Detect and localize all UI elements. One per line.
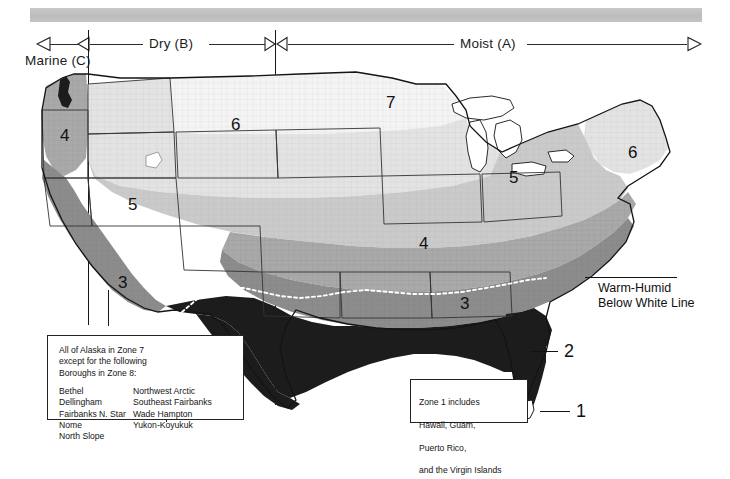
- zone-label-3-california: 3: [118, 274, 127, 291]
- zone1-legend-line-3: Puerto Rico,: [419, 443, 527, 454]
- zone-label-6-rockies: 6: [231, 116, 240, 133]
- alaska-borough-northwest-arctic: Northwest Arctic: [133, 386, 212, 397]
- zone-label-4-plains: 4: [419, 235, 428, 252]
- alaska-legend-column-right: Northwest Arctic Southeast Fairbanks Wad…: [133, 386, 212, 443]
- alaska-borough-fairbanks-ns: Fairbanks N. Star: [59, 409, 133, 420]
- zone-2-callout-label: 2: [564, 341, 574, 362]
- zone1-legend-line-1: Zone 1 includes: [419, 397, 527, 408]
- zone1-legend-line-2: Hawaii, Guam,: [419, 420, 527, 431]
- zone-label-5-midwest: 5: [509, 169, 518, 186]
- alaska-legend-columns: Bethel Dellingham Fairbanks N. Star Nome…: [59, 386, 243, 443]
- tick-mark-california: [108, 290, 109, 326]
- alaska-borough-southeast-fairbanks: Southeast Fairbanks: [133, 397, 212, 408]
- zone-7-texture: [170, 72, 466, 134]
- zone-label-7-north: 7: [386, 94, 395, 111]
- zone-label-3-south: 3: [460, 295, 469, 312]
- alaska-borough-dellingham: Dellingham: [59, 397, 133, 408]
- alaska-legend-column-left: Bethel Dellingham Fairbanks N. Star Nome…: [59, 386, 133, 443]
- zone1-legend-box: Zone 1 includes Hawaii, Guam, Puerto Ric…: [410, 379, 528, 423]
- zone-label-4-pacific-nw: 4: [60, 127, 69, 144]
- zone-label-5-west: 5: [128, 196, 137, 213]
- alaska-borough-nome: Nome: [59, 420, 133, 431]
- alaska-borough-yukon-koyukuk: Yukon-Koyukuk: [133, 420, 212, 431]
- warm-humid-leader-line: [585, 277, 677, 278]
- zone-1-callout-label: 1: [576, 401, 586, 422]
- alaska-legend-heading: All of Alaska in Zone 7 except for the f…: [59, 345, 243, 379]
- zone-label-6-northeast: 6: [628, 144, 637, 161]
- zone-1-leader-line: [540, 411, 570, 412]
- alaska-borough-bethel: Bethel: [59, 386, 133, 397]
- warm-humid-line-1: Warm-Humid: [598, 281, 695, 296]
- alaska-borough-north-slope: North Slope: [59, 431, 133, 442]
- zone-2-leader-line: [530, 351, 558, 352]
- alaska-borough-wade-hampton: Wade Hampton: [133, 409, 212, 420]
- warm-humid-annotation: Warm-Humid Below White Line: [598, 281, 695, 311]
- warm-humid-line-2: Below White Line: [598, 296, 695, 311]
- zone1-legend-line-4: and the Virgin Islands: [419, 465, 527, 476]
- zone1-legend-text: Zone 1 includes Hawaii, Guam, Puerto Ric…: [419, 386, 527, 479]
- alaska-legend-box: All of Alaska in Zone 7 except for the f…: [47, 335, 244, 420]
